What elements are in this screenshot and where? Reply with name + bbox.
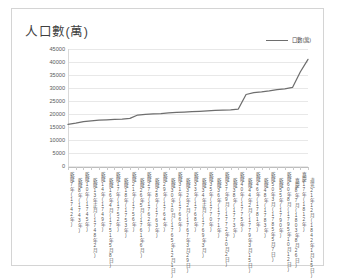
x-tick <box>138 167 139 170</box>
x-tick <box>293 167 294 170</box>
x-axis-line <box>68 167 308 168</box>
x-tick <box>246 167 247 170</box>
x-tick <box>153 167 154 170</box>
y-tick-label: 5000 <box>53 150 65 156</box>
y-tick-label: 35000 <box>49 72 65 78</box>
x-tick-label: 乾隆55年(1790年) <box>278 178 283 238</box>
y-tick-label: 30000 <box>49 85 65 91</box>
x-tick <box>169 167 170 170</box>
x-tick-label: 乾隆32年2月(1767年3月29日) <box>185 178 190 273</box>
x-tick <box>231 167 232 170</box>
x-tick-label: 乾隆29年(1764年) <box>162 172 167 232</box>
x-tick-label: 乾隆8年(1743年) <box>77 178 82 233</box>
x-axis-tick-labels: 乾隆7年(1742年)乾隆8年(1743年)乾隆10年(1745年)乾隆13年正… <box>68 172 310 262</box>
x-tick-label: 乾隆10年(1745年) <box>84 172 89 232</box>
x-tick-label: 乾隆17年(1752年) <box>115 172 120 232</box>
x-tick-label: 乾隆16年4月(1751年5月8日) <box>108 178 113 268</box>
x-tick <box>223 167 224 170</box>
x-tick <box>114 167 115 170</box>
x-tick <box>184 167 185 170</box>
x-tick <box>192 167 193 170</box>
x-tick-label: 道光21年12月(1842年1月15日) <box>309 178 314 278</box>
x-tick-label: 乾隆34年正月(1769年3月) <box>201 178 206 258</box>
x-tick <box>215 167 216 170</box>
x-tick-label: 乾隆31年(1766年) <box>177 172 182 232</box>
x-tick-label: 乾隆37年9月(1772年10月2日) <box>224 172 229 267</box>
x-tick <box>207 167 208 170</box>
x-tick <box>254 167 255 170</box>
y-axis-tick-labels: 4500040000350003000025000200001500010000… <box>32 49 65 167</box>
x-tick <box>277 167 278 170</box>
y-tick-label: 0 <box>62 163 65 169</box>
series-line-population <box>68 49 308 167</box>
x-tick-label: 乾隆38年(1773年) <box>232 178 237 238</box>
x-tick <box>68 167 69 170</box>
x-tick-label: 乾隆30年10月(1765年12月1日) <box>170 178 175 278</box>
x-tick <box>285 167 286 170</box>
x-tick <box>238 167 239 170</box>
x-tick <box>145 167 146 170</box>
x-tick <box>122 167 123 170</box>
x-tick-label: 乾隆21年(1756年) <box>131 172 136 232</box>
x-tick-label: 乾隆35年(1770年) <box>208 172 213 232</box>
y-tick-label: 25000 <box>49 98 65 104</box>
x-tick-label: 乾隆44年2月(1779年3月15日) <box>247 178 252 273</box>
x-tick-label: 乾隆14年(1749年) <box>100 172 105 232</box>
y-tick-label: 10000 <box>49 137 65 143</box>
x-tick-label: 乾隆13年正月(1748年2月) <box>92 178 97 258</box>
x-tick <box>107 167 108 170</box>
x-tick <box>200 167 201 170</box>
x-tick-label: 嘉慶17年(1812年) <box>301 172 306 232</box>
x-tick-label: 乾隆60年8月(1795年10月12日) <box>286 172 291 272</box>
plot-wrapper: 4500040000350003000025000200001500010000… <box>12 9 325 267</box>
y-tick-label: 40000 <box>49 59 65 65</box>
x-tick <box>176 167 177 170</box>
population-line <box>68 59 308 124</box>
y-tick-label: 20000 <box>49 111 65 117</box>
x-tick <box>83 167 84 170</box>
x-tick <box>262 167 263 170</box>
chart-container: 人口數(萬) 口數(萬) 450004000035000300002500020… <box>11 8 324 266</box>
x-tick-label: 乾隆18年(1753年) <box>123 178 128 238</box>
x-tick <box>130 167 131 170</box>
x-tick <box>76 167 77 170</box>
x-tick-label: 乾隆28年(1763年) <box>154 178 159 238</box>
x-tick <box>300 167 301 170</box>
y-tick-label: 45000 <box>49 46 65 52</box>
x-tick <box>99 167 100 170</box>
x-tick-label: 乾隆27年(1762年) <box>146 172 151 232</box>
x-tick-label: 乾隆48年(1783年) <box>263 178 268 238</box>
x-tick <box>91 167 92 170</box>
x-tick-label: 乾隆46年(1781年) <box>255 172 260 232</box>
x-tick-label: 乾隆7年(1742年) <box>69 172 74 227</box>
x-tick-label: 乾隆40年(1775年) <box>239 172 244 232</box>
x-tick-label: 乾隆26年5月(1761年6月) <box>139 178 144 258</box>
x-tick-label: 乾隆50年3月(1785年5月7日) <box>270 172 275 262</box>
x-tick <box>161 167 162 170</box>
x-tick-label: 乾隆33年(1768年) <box>193 172 198 232</box>
x-tick-label: 乾隆36年(1771年) <box>216 178 221 238</box>
x-tick <box>308 167 309 170</box>
x-tick-label: 嘉慶8年7月(1803年8月26日) <box>294 178 299 268</box>
y-tick-label: 15000 <box>49 124 65 130</box>
x-tick <box>269 167 270 170</box>
